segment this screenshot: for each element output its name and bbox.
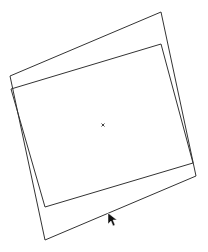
drawing-canvas[interactable] <box>0 0 208 252</box>
arrow-pointer-icon <box>108 213 117 226</box>
outer-rectangle[interactable] <box>10 12 196 240</box>
center-mark-icon <box>102 124 105 127</box>
